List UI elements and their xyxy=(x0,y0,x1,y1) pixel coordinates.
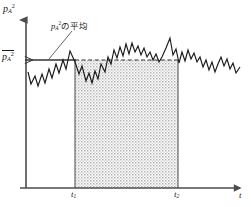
y-axis-label-sup: 2 xyxy=(12,2,15,9)
annotation-leader-line xyxy=(49,31,72,59)
x-axis-label: t xyxy=(239,190,242,200)
annotation-text: の平均 xyxy=(61,21,88,31)
figure-svg xyxy=(0,0,251,207)
y-axis-label: pA2 xyxy=(3,2,15,14)
x-tick-label-t1: t1 xyxy=(71,189,76,199)
mean-level-label-sup: 2 xyxy=(11,50,14,57)
figure-canvas: pA2 pA2 pA2の平均 t1 t2 t xyxy=(0,0,251,207)
x-tick-label-t2-sub: 2 xyxy=(177,193,180,199)
mean-level-overline-group: pA2 xyxy=(2,50,14,63)
mean-annotation-label: pA2の平均 xyxy=(51,19,88,31)
x-tick-label-t1-sub: 1 xyxy=(74,193,77,199)
x-tick-label-t2: t2 xyxy=(174,189,179,199)
mean-level-label: pA2 xyxy=(2,50,14,63)
